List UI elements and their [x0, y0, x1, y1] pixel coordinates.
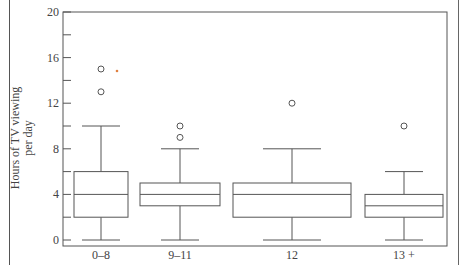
box-2: [233, 100, 351, 240]
box-0: [74, 66, 128, 240]
stray-mark: [116, 70, 119, 73]
y-axis-ticks: 048121620: [47, 5, 71, 247]
x-axis-labels: 0–89–111213 +: [92, 248, 415, 262]
outlier-point: [98, 66, 104, 72]
x-tick-label: 12: [286, 248, 298, 262]
y-tick-label: 4: [53, 187, 59, 201]
box-series: [74, 66, 443, 240]
y-tick-label: 20: [47, 5, 59, 19]
box-iqr: [233, 183, 351, 217]
y-tick-label: 0: [53, 233, 59, 247]
outlier-point: [177, 123, 183, 129]
box-3: [365, 123, 443, 240]
outlier-point: [177, 134, 183, 140]
x-tick-label: 13 +: [393, 248, 415, 262]
outlier-point: [98, 89, 104, 95]
outlier-point: [401, 123, 407, 129]
y-tick-label: 16: [47, 51, 59, 65]
y-tick-label: 12: [47, 96, 59, 110]
outlier-point: [289, 100, 295, 106]
box-1: [140, 123, 220, 240]
box-plot-chart: 048121620 0–89–111213 +: [0, 0, 470, 265]
x-tick-label: 0–8: [92, 248, 110, 262]
y-tick-label: 8: [53, 142, 59, 156]
x-tick-label: 9–11: [168, 248, 192, 262]
